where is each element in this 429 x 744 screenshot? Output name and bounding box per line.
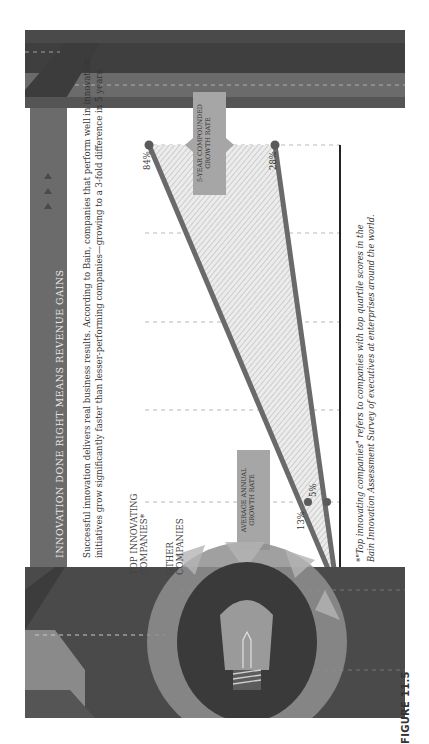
callout-annual-text: AVERAGE ANNUAL GROWTH RATE [240,458,256,542]
label-13: 13% [296,511,306,530]
point-other-5 [323,498,331,506]
point-top-13 [304,498,312,506]
label-84: 84% [142,151,152,170]
label-28: 28% [268,151,278,170]
label-5: 5% [308,484,318,498]
footnote-line-2: Bain Innovation Assessment Survey of exe… [366,214,377,562]
description: Successful innovation delivers real busi… [81,59,105,558]
legend-top-innovating: TOP INNOVATING COMPANIES* [129,494,149,576]
bottom-decorative-band [25,542,405,718]
footnote: *"Top innovating companies" refers to co… [355,214,377,562]
description-line-2: initiatives grow significantly faster th… [93,59,105,558]
figure-page: INNOVATION DONE RIGHT MEANS REVENUE GAIN… [0,0,429,744]
figure-caption: FIGURE 11.5 [400,671,411,744]
point-top-84 [145,141,154,150]
footnote-line-1: *"Top innovating companies" refers to co… [355,214,366,562]
callout-compound-text: 5-YEAR COMPOUNDED GROWTH RATE [196,98,212,188]
legend-other-companies: OTHER COMPANIES [165,518,185,575]
point-other-28 [271,141,280,150]
description-line-1: Successful innovation delivers real busi… [81,59,93,558]
lightbulb-icon [220,600,273,670]
infographic-title: INNOVATION DONE RIGHT MEANS REVENUE GAIN… [54,269,65,558]
infographic-frame: INNOVATION DONE RIGHT MEANS REVENUE GAIN… [25,30,405,718]
